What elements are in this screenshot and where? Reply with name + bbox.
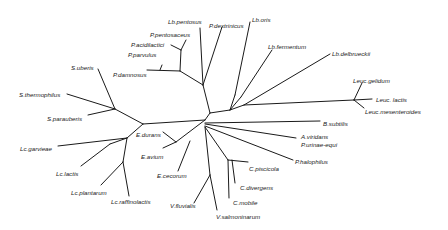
taxon-label-a-viridans: A.viridans [301, 134, 328, 140]
tree-branch [203, 85, 210, 113]
taxon-label-leuc-lactis: Leuc. lactis [376, 97, 407, 103]
taxon-label-leuc-gelidum: Leuc.gelidum [353, 78, 390, 84]
tree-branch [235, 22, 250, 95]
tree-branch [228, 160, 248, 162]
taxon-label-p-damnosus: P.damnosus [113, 72, 147, 78]
tree-branch [163, 132, 176, 142]
tree-branch [354, 100, 364, 108]
tree-branch [115, 109, 143, 124]
tree-branch [210, 110, 230, 113]
tree-branch [210, 175, 217, 210]
tree-branch [67, 94, 115, 109]
taxon-label-s-uberis: S.uberis [71, 65, 94, 71]
tree-branch [205, 113, 210, 120]
taxon-label-p-urinae-equi: P.urinae-equi [301, 142, 337, 148]
taxon-label-p-dextrinicus: P.dextrinicus [209, 23, 244, 29]
taxon-label-p-acidilactici: P.acidilactici [131, 42, 164, 48]
tree-branch [181, 40, 186, 50]
tree-branch [194, 175, 210, 203]
tree-branch [203, 27, 222, 85]
taxon-label-c-mobile: C.mobile [233, 200, 257, 206]
tree-branch [123, 162, 129, 196]
tree-branch [180, 50, 181, 71]
taxon-label-s-thermophilus: S.thermophilus [19, 92, 60, 98]
tree-branch [232, 160, 235, 183]
tree-branch [244, 54, 330, 105]
tree-branch [143, 120, 205, 124]
tree-branch [200, 28, 203, 85]
tree-branch [244, 100, 354, 105]
tree-branch [180, 71, 203, 85]
tree-branch [241, 50, 272, 97]
taxon-label-leuc-mesenteroides: Leuc.mesenteroides [365, 109, 421, 115]
tree-branch [205, 127, 210, 175]
taxon-label-s-parauberis: S.parauberis [47, 116, 82, 122]
taxon-label-e-cecorum: E.cecorum [157, 173, 187, 179]
taxon-label-e-avium: E.avium [141, 154, 163, 160]
tree-branch [81, 144, 110, 166]
taxon-label-lc-garvieae: Lc.garvieae [20, 146, 52, 152]
taxon-label-p-pentosaceus: P.pentosaceus [150, 32, 190, 38]
taxon-label-c-piscicola: C.piscicola [249, 166, 279, 172]
tree-branch [101, 162, 123, 185]
taxon-label-lb-delbrueckii: Lb.delbrueckii [332, 51, 370, 57]
tree-branch [205, 121, 320, 123]
tree-branch [176, 120, 205, 142]
tree-branch [147, 70, 180, 71]
tree-branch [88, 109, 115, 115]
taxon-label-lb-fermentum: Lb.fermentum [268, 44, 306, 50]
taxon-label-lc-raffinolactis: Lc.raffinolactis [111, 199, 151, 205]
tree-branch [160, 65, 162, 70]
taxon-label-e-durans: E.durans [136, 132, 161, 138]
taxon-label-lc-lactis: Lc.lactis [56, 171, 78, 177]
taxon-label-lb-pentosus: Lb.pentosus [168, 19, 202, 25]
tree-branch [178, 141, 190, 171]
taxon-label-c-divergens: C.divergens [240, 185, 273, 191]
tree-branch [205, 127, 228, 160]
tree-branch [228, 160, 229, 198]
taxon-label-p-halophilus: P.halophilus [295, 159, 328, 165]
tree-branch [123, 138, 127, 162]
taxon-label-p-parvulus: P.parvulus [128, 52, 156, 58]
taxon-label-lb-oris: Lb.oris [252, 17, 271, 23]
tree-branch [354, 83, 362, 100]
taxon-label-v-fluvialis: V.fluvialis [170, 203, 196, 209]
tree-branch [354, 99, 372, 100]
taxon-label-b-subtilis: B.subtilis [323, 121, 348, 127]
taxon-label-v-salmoninarum: V.salmoninarum [216, 214, 260, 220]
tree-branch [163, 142, 176, 148]
taxon-label-lc-plantarum: Lc.plantarum [71, 190, 107, 196]
tree-branch [171, 45, 181, 50]
